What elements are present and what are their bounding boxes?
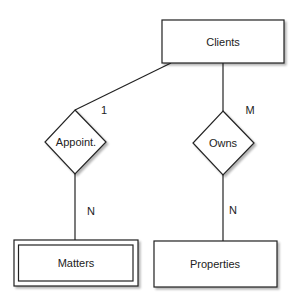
entity-clients[interactable]: Clients: [162, 20, 284, 63]
cardinality-clients-owns: M: [245, 104, 254, 116]
entity-matters[interactable]: Matters: [14, 240, 138, 286]
cardinality-owns-properties: N: [229, 204, 237, 216]
entity-properties-label: Properties: [190, 258, 241, 270]
entity-properties[interactable]: Properties: [154, 241, 277, 287]
relationship-owns-label: Owns: [209, 137, 238, 149]
entity-matters-label: Matters: [58, 257, 95, 269]
er-diagram: Clients Appoint. Owns Matters Properties…: [0, 0, 302, 305]
cardinality-appoint-matters: N: [87, 205, 95, 217]
relationship-appoint[interactable]: Appoint.: [45, 110, 106, 174]
entity-clients-label: Clients: [206, 36, 240, 48]
cardinality-clients-appoint: 1: [101, 104, 107, 116]
relationship-appoint-label: Appoint.: [56, 136, 96, 148]
relationship-owns[interactable]: Owns: [193, 111, 254, 175]
clients-appoint-line: [75, 63, 171, 110]
